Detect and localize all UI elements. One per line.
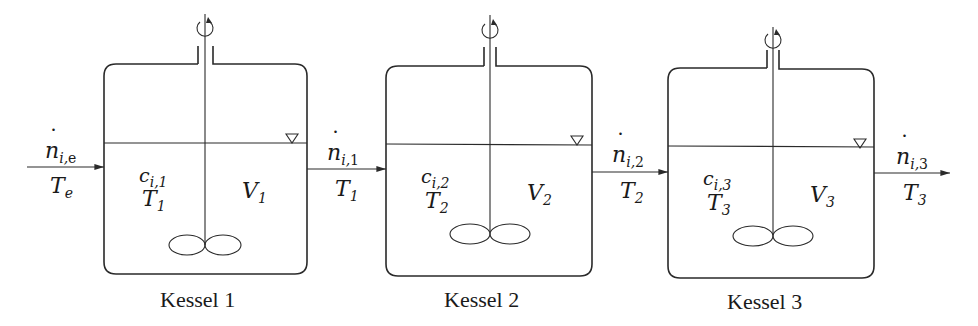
stream-2-temp-label: T2 <box>620 180 644 205</box>
tank-1-temperature: T1 <box>142 188 166 213</box>
tank-1-impeller-left <box>169 235 205 255</box>
tank-2-temperature: T2 <box>425 190 449 215</box>
tank-3-temperature: T3 <box>707 192 731 217</box>
inlet-flow-label: ni,e <box>45 140 76 165</box>
tank-2-volume: V2 <box>527 182 552 207</box>
tank-1-impeller-right <box>205 235 241 255</box>
tank-3 <box>668 27 874 278</box>
tank-2-concentration: ci,2 <box>421 167 450 190</box>
tank-2-vessel <box>386 47 592 276</box>
tank-2-caption: Kessel 2 <box>444 289 519 311</box>
tank-3-caption: Kessel 3 <box>727 291 802 313</box>
tank-2-liquid-level <box>386 144 592 145</box>
tank-1-volume: V1 <box>242 180 267 205</box>
inlet-temp-label: Te <box>50 175 73 200</box>
tank-3-volume: V3 <box>810 184 835 209</box>
level-marker-icon <box>571 136 583 145</box>
tank-3-concentration: ci,3 <box>703 169 732 192</box>
stream-2-flow-label: ni,2 <box>612 144 644 169</box>
tank-2 <box>386 15 592 276</box>
stream-1-flow-label: ni,1 <box>327 142 359 167</box>
level-marker-icon <box>286 134 298 143</box>
tank-1-caption: Kessel 1 <box>160 289 235 311</box>
tank-3-vessel <box>668 50 874 278</box>
tank-1 <box>104 14 307 274</box>
tank-3-liquid-level <box>668 146 874 147</box>
cascade-diagram <box>0 0 978 326</box>
stream-1-temp-label: T1 <box>335 178 359 203</box>
outlet-temp-label: T3 <box>903 182 927 207</box>
outlet-flow-label: ni,3 <box>896 146 928 171</box>
